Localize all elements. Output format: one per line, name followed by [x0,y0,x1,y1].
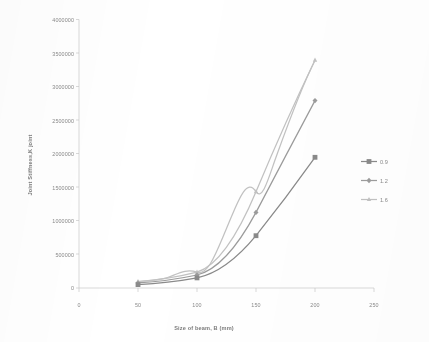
series-curve-1-2 [138,101,315,283]
x-tick-label: 150 [251,302,260,308]
series-markers-0-9 [136,155,318,287]
y-tick-label: 4000000 [52,17,74,23]
series-markers-1-6 [136,58,317,283]
square-marker [254,233,259,238]
square-marker [136,282,141,287]
square-marker-icon [367,159,372,164]
y-tick-label: 2500000 [52,118,74,124]
y-axis-title: Joint Stiffness,K joint [27,135,33,196]
y-tick-label: 500000 [55,252,74,258]
legend-label-0-9: 0.9 [380,159,388,165]
diamond-marker-icon [367,178,372,183]
series-curve-1-6 [138,60,315,281]
series-0-9 [136,155,318,287]
legend-label-1-6: 1.6 [380,197,388,203]
y-axis-tick-labels: 4000000 3500000 3000000 2500000 2000000 … [52,17,74,291]
x-axis [79,288,374,292]
y-tick-label: 3000000 [52,84,74,90]
line-chart: 4000000 3500000 3000000 2500000 2000000 … [0,0,429,342]
x-axis-title: Size of beam, B (mm) [174,325,234,331]
series-1-6 [136,58,317,283]
x-tick-label: 100 [192,302,201,308]
y-tick-label: 1500000 [52,185,74,191]
y-tick-label: 3500000 [52,51,74,57]
legend-item-0-9[interactable]: 0.9 [361,159,388,165]
square-marker [195,276,200,281]
x-tick-label: 50 [135,302,141,308]
square-marker [313,155,318,160]
diamond-marker [254,210,259,215]
triangle-marker [313,58,317,62]
series-curve-0-9 [138,157,315,284]
x-tick-label: 200 [310,302,319,308]
series-line-1-6 [138,60,315,281]
diamond-marker [313,98,318,103]
y-tick-label: 1000000 [52,218,74,224]
x-axis-tick-labels: 0 50 100 150 200 250 [77,302,378,308]
legend-item-1-2[interactable]: 1.2 [361,178,388,184]
y-tick-label: 0 [71,285,74,291]
legend-label-1-2: 1.2 [380,178,388,184]
x-tick-label: 0 [77,302,80,308]
x-tick-label: 250 [369,302,378,308]
y-tick-label: 2000000 [52,151,74,157]
y-axis [76,20,79,289]
chart-figure: 4000000 3500000 3000000 2500000 2000000 … [0,0,429,342]
legend-item-1-6[interactable]: 1.6 [361,197,388,203]
chart-legend: 0.9 1.2 1.6 [361,159,388,203]
